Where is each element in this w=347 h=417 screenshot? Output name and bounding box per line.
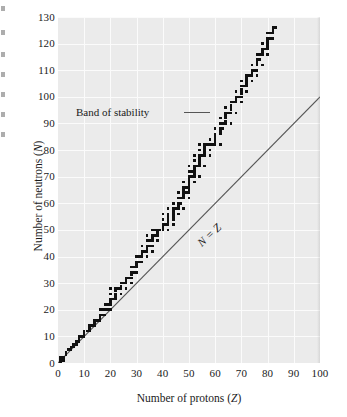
y-axis-title-close: ) <box>32 141 44 145</box>
n-equals-z-label: N = Z <box>195 221 223 249</box>
y-tick-label: 70 <box>0 171 55 182</box>
y-tick-label: 50 <box>0 224 55 235</box>
plot-area: Band of stability N = Z <box>58 17 320 363</box>
y-tick-label: 90 <box>0 118 55 129</box>
y-tick-label: 40 <box>0 251 55 262</box>
y-tick-label: 20 <box>0 304 55 315</box>
y-tick-label: 100 <box>0 91 55 102</box>
y-tick-label: 0 <box>0 358 55 369</box>
x-axis-title-text: Number of protons ( <box>137 392 231 404</box>
band-of-stability-label: Band of stability <box>76 106 149 118</box>
band-of-stability-leader-line <box>184 112 210 113</box>
y-axis-title: Number of neutrons (N) <box>32 76 44 316</box>
annotation-layer: Band of stability N = Z <box>58 17 320 363</box>
y-tick-label: 10 <box>0 331 55 342</box>
x-axis-title-close: ) <box>237 392 241 404</box>
x-tick-label: 100 <box>300 368 340 379</box>
y-axis-symbol: N <box>32 144 44 152</box>
y-tick-label: 130 <box>0 12 55 23</box>
x-axis-title: Number of protons (Z) <box>58 392 320 404</box>
y-tick-label: 80 <box>0 145 55 156</box>
band-of-stability-figure: Band of stability N = Z 0102030405060708… <box>0 0 347 417</box>
y-tick-label: 60 <box>0 198 55 209</box>
y-axis-title-text: Number of neutrons ( <box>32 152 44 251</box>
y-tick-label: 120 <box>0 38 55 49</box>
y-tick-label: 110 <box>0 65 55 76</box>
y-tick-label: 30 <box>0 278 55 289</box>
